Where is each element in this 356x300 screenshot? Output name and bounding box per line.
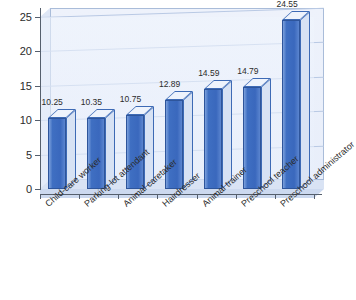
bar-side-face xyxy=(261,78,271,189)
y-tick-20 xyxy=(35,51,40,52)
y-tick-label-20: 20 xyxy=(0,46,32,57)
bar[interactable] xyxy=(48,118,66,189)
bar-front-face xyxy=(165,100,183,189)
y-tick-label-10: 10 xyxy=(0,115,32,126)
bar-value-label: 12.89 xyxy=(159,80,180,89)
bar-value-label: 10.35 xyxy=(81,98,102,107)
y-tick-25 xyxy=(35,17,40,18)
y-tick-label-25: 25 xyxy=(0,12,32,23)
bar-value-label: 24.55 xyxy=(276,0,297,9)
x-tick-2 xyxy=(118,194,119,199)
bar[interactable] xyxy=(204,89,222,189)
bar-front-face xyxy=(204,89,222,189)
x-tick-4 xyxy=(197,194,198,199)
bar-front-face xyxy=(87,118,105,189)
y-tick-label-5: 5 xyxy=(0,150,32,161)
x-tick-7 xyxy=(314,194,315,199)
y-axis-line xyxy=(40,8,41,190)
y-tick-5 xyxy=(35,155,40,156)
y-tick-0 xyxy=(35,189,40,190)
bar[interactable] xyxy=(87,118,105,189)
x-tick-5 xyxy=(236,194,237,199)
y-tick-15 xyxy=(35,86,40,87)
x-tick-0 xyxy=(40,194,41,199)
x-tick-3 xyxy=(157,194,158,199)
bar[interactable] xyxy=(165,100,183,189)
bar-side-face xyxy=(300,11,310,189)
x-tick-1 xyxy=(79,194,80,199)
y-tick-label-15: 15 xyxy=(0,81,32,92)
bar-side-face xyxy=(222,80,232,189)
bar-value-label: 14.79 xyxy=(237,67,258,76)
y-tick-10 xyxy=(35,120,40,121)
bar-front-face xyxy=(48,118,66,189)
bar-value-label: 10.75 xyxy=(120,95,141,104)
x-tick-6 xyxy=(275,194,276,199)
bar-value-label: 14.59 xyxy=(198,69,219,78)
y-tick-label-0: 0 xyxy=(0,184,32,195)
bar-value-label: 10.25 xyxy=(42,98,63,107)
